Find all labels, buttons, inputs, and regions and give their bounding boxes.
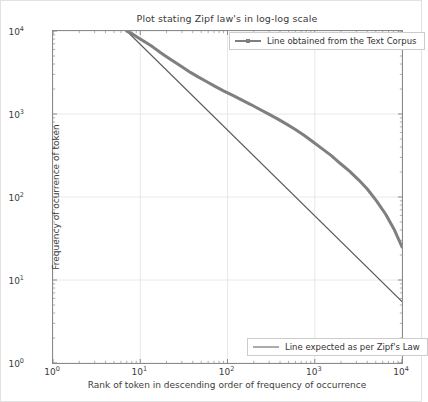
x-tick-label: 103 <box>306 365 322 377</box>
gridlines <box>53 31 402 363</box>
plot-area: 100101102103104 Frequency of ocurrence o… <box>52 30 403 364</box>
y-tick-label: 102 <box>8 191 24 203</box>
legend-zipf: Line expected as per Zipf's Law <box>247 338 428 356</box>
legend-corpus: Line obtained from the Text Corpus <box>229 32 425 50</box>
zipf-expected-line <box>127 31 402 302</box>
legend-line-icon <box>253 342 279 352</box>
x-tick-label: 104 <box>393 365 409 377</box>
x-tick-label: 102 <box>219 365 235 377</box>
legend-zipf-label: Line expected as per Zipf's Law <box>285 342 420 352</box>
x-tick-label: 100 <box>44 365 60 377</box>
y-tick-label: 103 <box>8 108 24 120</box>
page-title: Plot stating Zipf law's in log-log scale <box>52 13 402 24</box>
y-tick-label: 100 <box>8 357 24 369</box>
x-axis-label: Rank of token in descending order of fre… <box>52 380 402 390</box>
legend-line-marker-icon <box>235 36 261 46</box>
y-axis-label: Frequency of ocurrence of token <box>51 31 65 363</box>
y-tick-label: 104 <box>8 25 24 37</box>
plot-canvas <box>53 31 402 363</box>
legend-corpus-label: Line obtained from the Text Corpus <box>267 36 417 46</box>
x-tick-label: 101 <box>131 365 147 377</box>
corpus-observed-line <box>127 31 402 247</box>
y-tick-label: 101 <box>8 274 24 286</box>
